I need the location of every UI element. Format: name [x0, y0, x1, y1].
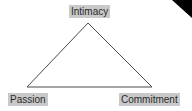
vertex-label-commitment: Commitment [119, 93, 180, 106]
vertex-label-passion: Passion [8, 93, 48, 106]
page-corner-fold [172, 0, 192, 18]
love-triangle [27, 23, 152, 87]
vertex-label-intimacy: Intimacy [69, 5, 110, 18]
